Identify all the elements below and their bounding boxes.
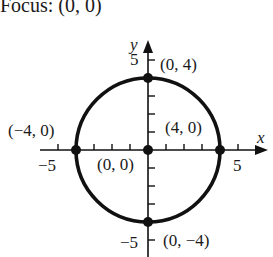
point-origin bbox=[143, 145, 153, 155]
x-axis-label: x bbox=[256, 128, 265, 147]
point-label-origin: (0, 0) bbox=[97, 155, 134, 174]
x-tick-neg5: −5 bbox=[38, 156, 56, 175]
point-label-right: (4, 0) bbox=[165, 118, 202, 137]
y-axis-arrow-icon bbox=[143, 40, 153, 53]
point-label-left: (−4, 0) bbox=[8, 121, 54, 140]
x-tick-5: 5 bbox=[233, 156, 242, 175]
point-left bbox=[71, 145, 81, 155]
circle-diagram: y x 5 −5 −5 5 (0, 4) (−4, 0) (4, 0) (0, … bbox=[0, 0, 273, 257]
point-label-top: (0, 4) bbox=[160, 55, 197, 74]
y-tick-neg5: −5 bbox=[120, 233, 138, 252]
point-top bbox=[143, 73, 153, 83]
point-bottom bbox=[143, 217, 153, 227]
y-tick-5: 5 bbox=[130, 50, 139, 69]
point-right bbox=[215, 145, 225, 155]
point-label-bottom: (0, −4) bbox=[163, 231, 209, 250]
